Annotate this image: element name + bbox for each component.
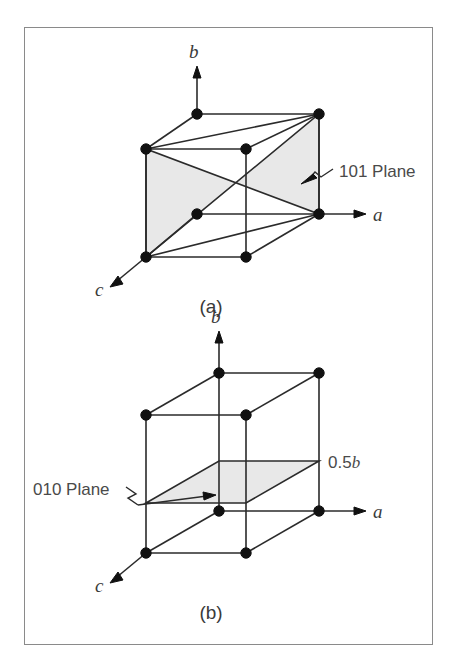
cube-a-connector-bottom-right	[246, 214, 319, 257]
cube-b-connector-top-left	[146, 373, 219, 415]
cube-b-connector-bottom-right	[246, 511, 319, 553]
cube-b-connector-bottom-left	[146, 511, 219, 553]
vertex-a-8	[192, 209, 202, 219]
figure-frame: b a c 101	[24, 27, 433, 645]
panel-a: b a c 101	[25, 28, 434, 337]
plane-010-fill	[146, 461, 319, 503]
axis-b-arrowhead-a	[193, 66, 201, 78]
vertex-b-3	[141, 548, 151, 558]
panel-a-svg: b a c 101	[25, 28, 434, 337]
vertex-b-1	[141, 410, 151, 420]
axis-a-arrowhead-a	[354, 210, 366, 218]
axis-a-label-b: a	[373, 501, 383, 522]
vertex-b-5	[214, 368, 224, 378]
axis-c-label-b: c	[95, 575, 104, 596]
vertex-a-1	[141, 144, 151, 154]
height-label-value: 0.5	[328, 453, 352, 472]
vertex-a-6	[314, 109, 324, 119]
vertex-a-5	[192, 109, 202, 119]
panel-b-svg: a c 010 Plane 0.5b	[25, 297, 434, 644]
axis-a-label-a: a	[373, 204, 383, 225]
vertex-b-8	[214, 506, 224, 516]
figure-root: b a c 101	[0, 0, 458, 663]
axis-b-arrowhead-b	[215, 331, 223, 343]
plane-010-label: 010 Plane	[33, 480, 110, 499]
panel-b: a c 010 Plane 0.5b	[25, 297, 434, 604]
vertex-b-7	[314, 506, 324, 516]
vertex-a-4	[241, 252, 251, 262]
height-label-b: 0.5b	[328, 453, 360, 472]
axis-b-label-a: b	[189, 41, 199, 62]
height-label-axis: b	[352, 453, 361, 472]
vertex-a-3	[141, 252, 151, 262]
axis-b-label-b: b	[211, 306, 221, 327]
vertex-b-6	[314, 368, 324, 378]
plane-101-label: 101 Plane	[339, 162, 416, 181]
axis-a-arrowhead-b	[354, 507, 366, 515]
vertex-a-2	[241, 144, 251, 154]
cube-b-connector-top-right	[246, 373, 319, 415]
vertex-a-7	[314, 209, 324, 219]
panel-b-caption: (b)	[199, 602, 222, 623]
vertex-b-2	[241, 410, 251, 420]
vertex-b-4	[241, 548, 251, 558]
plane-010-leader-zigzag	[126, 487, 138, 505]
